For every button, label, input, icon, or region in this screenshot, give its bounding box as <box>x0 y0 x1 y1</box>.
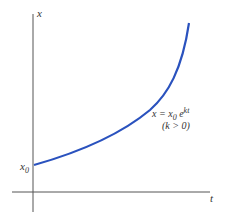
exponential-curve <box>34 23 189 165</box>
chart-canvas <box>0 0 231 224</box>
condition-label: (k > 0) <box>162 120 190 131</box>
x-axis-label: t <box>210 192 213 204</box>
x0-tick-label: x0 <box>20 160 29 175</box>
y-axis-label: x <box>37 7 42 19</box>
